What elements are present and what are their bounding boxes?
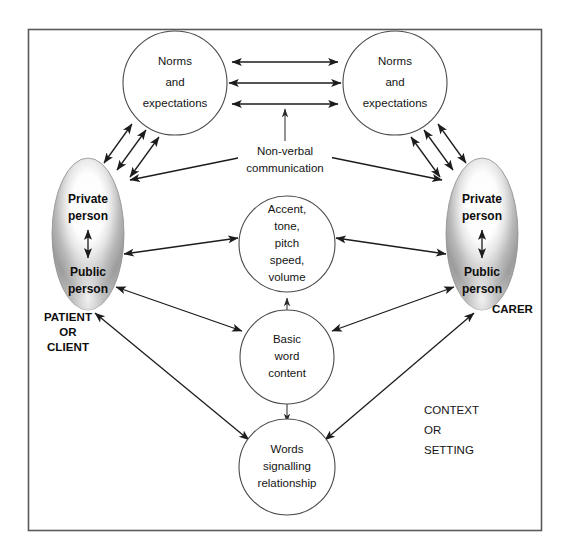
context-line-1: OR [424, 424, 441, 436]
non-verbal-line-0: Non-verbal [257, 145, 313, 157]
person-left-public-line-0: Public [70, 265, 106, 279]
edge-norms-left-to-person-left [104, 124, 159, 177]
node-norms-right[interactable]: Norms and expectations [343, 31, 447, 135]
edge-person-right-to-words-relationship [325, 313, 474, 440]
node-basic-word-content[interactable]: Basic word content [240, 310, 334, 404]
edge-person-right-to-basic-word [332, 287, 454, 331]
edge-person-left-to-words-relationship [95, 313, 249, 440]
words-relationship-line-2: relationship [258, 477, 317, 489]
label-carer: CARER [492, 303, 534, 315]
norms-left-line-1: and [165, 76, 184, 88]
node-accent[interactable]: Accent, tone, pitch speed, volume [239, 196, 335, 292]
label-patient-or-client: PATIENT OR CLIENT [44, 311, 92, 353]
norms-left-line-2: expectations [143, 97, 208, 109]
patient-caption-line-2: CLIENT [47, 341, 89, 353]
words-relationship-line-0: Words [270, 443, 303, 455]
person-right-private-line-0: Private [462, 192, 502, 206]
node-person-left[interactable]: Private person Public person [52, 158, 124, 310]
edge-person-right-to-accent [336, 238, 446, 254]
accent-line-4: volume [268, 271, 305, 283]
context-line-2: SETTING [424, 444, 474, 456]
carer-caption: CARER [492, 303, 534, 315]
person-right-public-line-1: person [462, 282, 502, 296]
person-left-private-line-0: Private [68, 192, 108, 206]
node-norms-left[interactable]: Norms and expectations [123, 31, 227, 135]
diagram-canvas: Private person Public person Private per… [0, 0, 568, 556]
words-relationship-line-1: signalling [263, 460, 311, 472]
person-right-private-line-1: person [462, 209, 502, 223]
patient-caption-line-1: OR [59, 326, 77, 338]
norms-left-line-0: Norms [158, 55, 192, 67]
person-left-private-line-1: person [68, 209, 108, 223]
edge-norms-right-to-person-right [411, 124, 466, 177]
accent-line-3: speed, [270, 254, 305, 266]
basic-word-line-1: word [274, 350, 300, 362]
label-non-verbal-communication: Non-verbal communication [238, 142, 332, 176]
patient-caption-line-0: PATIENT [44, 311, 92, 323]
person-left-public-line-1: person [68, 282, 108, 296]
communication-model-diagram: Private person Public person Private per… [0, 0, 568, 556]
label-context-or-setting: CONTEXT OR SETTING [424, 404, 479, 456]
norms-right-line-2: expectations [363, 97, 428, 109]
accent-line-1: tone, [274, 220, 300, 232]
accent-line-2: pitch [275, 237, 299, 249]
node-person-right[interactable]: Private person Public person [446, 158, 518, 310]
edge-nonverbal-to-person-left [130, 157, 243, 180]
edge-person-left-to-basic-word [116, 287, 242, 331]
accent-line-0: Accent, [268, 203, 306, 215]
norms-right-line-0: Norms [378, 55, 412, 67]
node-words-signalling-relationship[interactable]: Words signalling relationship [239, 419, 335, 515]
edge-norms-left-to-norms-right [229, 62, 341, 104]
edge-person-left-to-accent [124, 238, 238, 254]
person-right-public-line-0: Public [464, 265, 500, 279]
context-line-0: CONTEXT [424, 404, 479, 416]
norms-right-line-1: and [385, 76, 404, 88]
basic-word-line-2: content [268, 367, 307, 379]
edge-nonverbal-to-person-right [329, 157, 442, 180]
basic-word-line-0: Basic [273, 333, 301, 345]
non-verbal-line-1: communication [246, 162, 323, 174]
